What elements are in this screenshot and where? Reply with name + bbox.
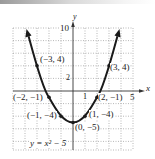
x-axis-arrow-icon (139, 89, 145, 93)
y-tick-2: 2 (66, 74, 70, 82)
x-tick-5: 5 (130, 93, 135, 102)
plot-area (0, 0, 155, 159)
label-point-neg3-4: (−3, 4) (40, 55, 65, 64)
y-axis-arrow-icon (71, 21, 75, 27)
equation-label: y = x² − 5 (30, 139, 66, 148)
label-point-1-neg4: (1, −4) (89, 110, 114, 119)
curve-arrow-right-icon (115, 29, 121, 38)
label-point-3-4: (3, 4) (110, 63, 130, 72)
x-axis-label: x (146, 84, 150, 93)
label-point-0-neg5: (0, −5) (75, 123, 100, 132)
curve-arrow-left-icon (25, 29, 31, 38)
x-tick-1: 1 (83, 93, 87, 101)
y-axis-label: y (73, 13, 77, 21)
label-point-neg1-neg4: (−1, −4) (27, 111, 57, 120)
label-point-neg2-neg1: (−2, −1) (13, 93, 43, 102)
y-tick-10: 10 (60, 24, 69, 33)
label-point-2-neg1: (2, −1) (98, 93, 123, 102)
